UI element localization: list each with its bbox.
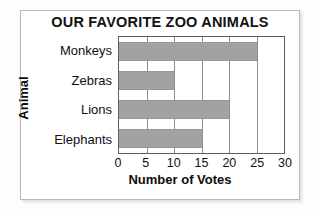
chart-title: OUR FAVORITE ZOO ANIMALS	[20, 14, 300, 30]
y-axis-category-label: Zebras	[38, 66, 116, 96]
bar-row	[119, 95, 284, 124]
bar	[119, 100, 229, 119]
x-axis-title: Number of Votes	[60, 172, 300, 187]
x-axis-tick-label: 15	[195, 156, 209, 170]
x-axis-tick-label: 5	[142, 156, 149, 170]
bar-row	[119, 66, 284, 95]
y-axis-category-label: Monkeys	[38, 36, 116, 66]
y-axis-title: Animal	[16, 58, 31, 138]
bar	[119, 71, 174, 90]
plot-area	[118, 36, 285, 154]
bar	[119, 129, 202, 148]
bar-row	[119, 124, 284, 153]
scanned-page: OUR FAVORITE ZOO ANIMALS Animal MonkeysZ…	[0, 0, 319, 216]
x-axis-tick-label: 25	[250, 156, 264, 170]
y-axis-category-label: Lions	[38, 95, 116, 125]
y-axis-category-label: Elephants	[38, 125, 116, 155]
x-axis-tick-label: 10	[167, 156, 181, 170]
x-axis-tick-label: 0	[115, 156, 122, 170]
y-axis-category-labels: MonkeysZebrasLionsElephants	[38, 36, 116, 154]
x-axis-tick-label: 20	[222, 156, 236, 170]
x-axis-tick-label: 30	[278, 156, 292, 170]
x-axis-tick-labels: 051015202530	[118, 156, 285, 172]
bar-row	[119, 37, 284, 66]
bar	[119, 42, 257, 61]
bar-series	[119, 37, 284, 153]
